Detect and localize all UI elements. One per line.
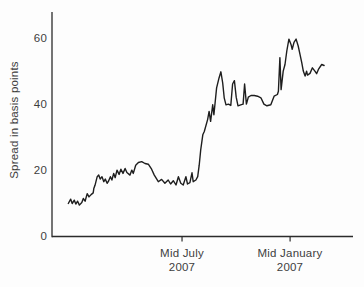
x-tick-label-mid-january: Mid January 2007 [230,246,350,274]
y-tick-label-40: 40 [18,98,47,110]
y-tick-label-60: 60 [18,32,47,44]
plot-svg [0,0,364,287]
x-tick-label-mid-july-line2: 2007 [122,260,242,274]
spread-line-chart: Spread in basis points 60 40 20 0 Mid Ju… [0,0,364,287]
spread-series-line [68,39,324,205]
x-tick-label-mid-july-line1: Mid July [122,246,242,260]
x-tick-label-mid-january-line1: Mid January [230,246,350,260]
x-tick-label-mid-january-line2: 2007 [230,260,350,274]
x-tick-label-mid-july: Mid July 2007 [122,246,242,274]
y-tick-label-0: 0 [18,230,47,242]
y-axis-title: Spread in basis points [8,61,20,179]
y-tick-label-20: 20 [18,164,47,176]
